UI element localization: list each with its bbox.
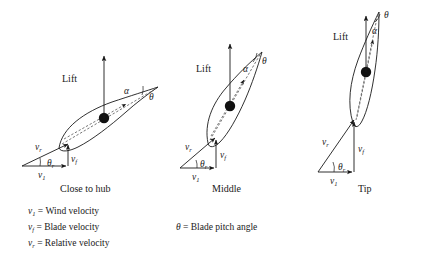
relative-angle-label-close-to-hub: θr [47,158,55,169]
relative-angle-arc-middle [196,160,197,168]
relative-angle-label-middle: θr [200,159,208,170]
caption-tip: Tip [358,183,372,194]
attack-angle-label-close-to-hub: α [124,86,130,96]
wind-velocity-label-middle: v1 [192,172,199,183]
panel-middle: Lift θ α vr vf v1 θr Middle [180,44,267,194]
caption-middle: Middle [212,183,241,194]
svg-text:vf = Blade velocity: vf = Blade velocity [28,222,100,233]
pitch-angle-arc-close-to-hub [142,86,143,95]
pitch-angle-label-close-to-hub: θ [149,92,154,102]
wind-velocity-label-close-to-hub: v1 [38,170,45,181]
attack-angle-label-tip: α [372,26,378,36]
chord-line-close-to-hub [62,88,157,144]
diagram-canvas: Lift θ α vr vf v1 θr Close to hub L [0,0,436,260]
panel-tip: Lift θ α vr vf v1 θr Tip [318,10,389,194]
legend: v1 = Wind velocity vf = Blade velocity v… [28,206,257,249]
relative-velocity-label-tip: vr [322,137,329,148]
svg-text:θ = Blade pitch angle: θ = Blade pitch angle [176,222,257,232]
lift-label-middle: Lift [196,63,211,74]
relative-velocity-label-middle: vr [185,142,192,153]
chord-line-middle [210,53,261,140]
legend-item-relative-velocity: vr = Relative velocity [28,238,110,249]
pitch-angle-label-middle: θ [262,56,267,66]
svg-text:v1 = Wind velocity: v1 = Wind velocity [28,206,99,217]
lift-label-close-to-hub: Lift [62,73,77,84]
caption-close-to-hub: Close to hub [60,183,111,194]
wind-velocity-label-tip: v1 [330,176,337,187]
panel-close-to-hub: Lift θ α vr vf v1 θr Close to hub [22,56,158,194]
attack-angle-label-middle: α [243,64,249,74]
airfoil-outline-middle [207,52,262,147]
blade-velocity-label-middle: vf [220,150,227,161]
relative-velocity-inner-arrow-tip [357,40,373,117]
legend-item-blade-velocity: vf = Blade velocity [28,222,100,233]
lift-label-tip: Lift [333,31,348,42]
relative-angle-label-tip: θr [338,162,346,173]
relative-angle-arc-tip [333,162,334,172]
wind-turbine-blade-diagram: Lift θ α vr vf v1 θr Close to hub L [0,0,436,260]
svg-text:vr = Relative velocity: vr = Relative velocity [28,238,110,249]
legend-item-wind-velocity: v1 = Wind velocity [28,206,99,217]
relative-velocity-label-close-to-hub: vr [35,142,42,153]
pitch-angle-label-tip: θ [384,10,389,20]
relative-velocity-vector-close-to-hub [22,144,68,166]
blade-velocity-label-close-to-hub: vf [71,154,78,165]
legend-item-blade-pitch-angle: θ = Blade pitch angle [176,222,257,232]
blade-velocity-label-tip: vf [358,144,365,155]
